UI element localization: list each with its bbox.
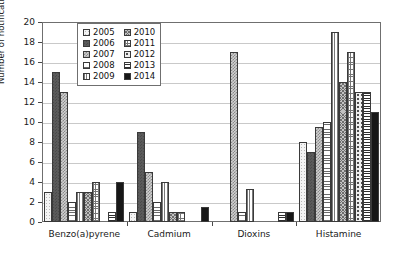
legend-item[interactable]: 2013 [124,60,156,71]
legend-swatch-icon [83,62,90,69]
legend-swatch-icon [124,29,131,36]
y-axis-tick-label: 16 [9,57,35,67]
y-axis-tick-label: 8 [9,137,35,147]
bar [347,52,355,222]
legend-item-label: 2012 [134,49,156,60]
bar [246,189,254,222]
bar [323,122,331,222]
bar [238,212,246,222]
legend-swatch-icon [83,29,90,36]
y-axis-tick-label: 20 [9,17,35,27]
legend-item-label: 2007 [93,49,115,60]
y-axis-tick-label: 4 [9,177,35,187]
bar [201,207,209,222]
legend-item[interactable]: 2010 [124,27,156,38]
x-axis-category-label: Benzo(a)pyrene [49,229,121,239]
bar [52,72,60,222]
legend-item-label: 2010 [134,27,156,38]
x-axis-category-label: Histamine [316,229,362,239]
legend-swatch-icon [83,40,90,47]
y-axis-tick-label: 6 [9,157,35,167]
bar [44,192,52,222]
bar [68,202,76,222]
y-axis-tick-label: 0 [9,217,35,227]
bar [230,52,238,222]
legend-item[interactable]: 2006 [83,38,115,49]
y-axis-title: Number of notifications [0,0,6,104]
bar-chart: Number of notifications 0246810121416182… [0,0,393,257]
legend-item-label: 2005 [93,27,115,38]
bar [315,127,323,222]
bar [307,152,315,222]
legend-item-label: 2013 [134,60,156,71]
y-axis-tick-mark [38,222,42,223]
bar [116,182,124,222]
legend-item[interactable]: 2009 [83,71,115,82]
y-axis-tick-label: 10 [9,117,35,127]
y-axis-tick-label: 12 [9,97,35,107]
x-axis-tick-mark [127,222,128,226]
bar [161,182,169,222]
legend-item-label: 2014 [134,71,156,82]
bar [299,142,307,222]
legend-item-label: 2009 [93,71,115,82]
legend-item[interactable]: 2008 [83,60,115,71]
bar [286,212,294,222]
bar [177,212,185,222]
bar [145,172,153,222]
chart-legend: 2005201020062011200720122008201320092014 [77,23,161,86]
legend-swatch-icon [124,40,131,47]
bar [84,192,92,222]
legend-item[interactable]: 2005 [83,27,115,38]
bar [92,182,100,222]
bar [339,82,347,222]
bar [129,212,137,222]
bar [355,92,363,222]
legend-item[interactable]: 2012 [124,49,156,60]
x-axis-tick-mark [212,222,213,226]
legend-item[interactable]: 2011 [124,38,156,49]
bar-group [214,22,294,222]
legend-swatch-icon [124,73,131,80]
bar [137,132,145,222]
legend-item-label: 2011 [134,38,156,49]
legend-item[interactable]: 2014 [124,71,156,82]
legend-swatch-icon [83,73,90,80]
bar [60,92,68,222]
legend-item[interactable]: 2007 [83,49,115,60]
x-axis-category-label: Dioxins [237,229,270,239]
bar [371,112,379,222]
bar [76,192,84,222]
y-axis-tick-label: 18 [9,37,35,47]
legend-swatch-icon [83,51,90,58]
bar [108,212,116,222]
bar [169,212,177,222]
bar-group [299,22,379,222]
y-axis-tick-label: 2 [9,197,35,207]
bar [278,212,286,222]
legend-swatch-icon [124,51,131,58]
x-axis-category-label: Cadmium [147,229,190,239]
bar [331,32,339,222]
bar [153,202,161,222]
x-axis-tick-mark [296,222,297,226]
legend-swatch-icon [124,62,131,69]
y-axis-tick-label: 14 [9,77,35,87]
legend-item-label: 2008 [93,60,115,71]
legend-item-label: 2006 [93,38,115,49]
bar [363,92,371,222]
